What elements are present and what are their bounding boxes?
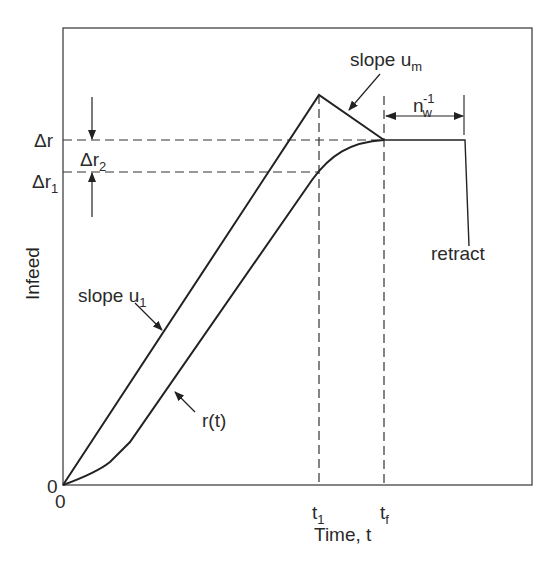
delta-r-label: Δr xyxy=(34,131,53,150)
retract-label: retract xyxy=(431,244,485,263)
r-t-curve xyxy=(63,140,384,485)
retract-line xyxy=(384,140,469,246)
nw-inverse-label: nw-1 xyxy=(413,92,435,119)
r-t-label: r(t) xyxy=(202,411,226,430)
nw-arrowhead-left xyxy=(385,112,396,120)
tf-tick-label: tf xyxy=(380,503,389,526)
x-axis-title: Time, t xyxy=(314,525,371,544)
x-zero-label: 0 xyxy=(55,492,66,511)
y-axis-title: Infeed xyxy=(22,247,44,300)
slope-u1-label: slope u1 xyxy=(78,286,147,309)
r-t-pointer xyxy=(175,392,195,412)
t1-tick-label: t1 xyxy=(312,503,325,526)
slope-um-label: slope um xyxy=(350,50,422,73)
slope-um-pointer xyxy=(349,74,380,110)
delta-r2-label: Δr2 xyxy=(80,150,106,173)
delta-r1-label: Δr1 xyxy=(32,172,58,195)
